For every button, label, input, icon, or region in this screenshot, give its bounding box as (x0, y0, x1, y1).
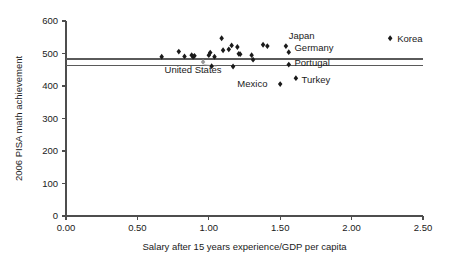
y-tick-label-300: 300 (42, 113, 58, 124)
x-tick-label-0.00: 0.00 (57, 222, 76, 233)
annotation-portugal: Portugal (294, 57, 329, 68)
y-tick-label-0: 0 (53, 210, 58, 221)
data-point-mexico (278, 81, 283, 87)
y-tick-label-500: 500 (42, 48, 58, 59)
chart-figure: 01002003004005006000.000.501.001.502.002… (0, 0, 453, 273)
chart-legend: Korea (388, 33, 423, 44)
data-point-point-14 (227, 46, 232, 52)
data-point-point-3 (182, 54, 187, 60)
y-tick-label-400: 400 (42, 80, 58, 91)
annotation-united-states: United States (165, 64, 222, 75)
scatter-plot: 01002003004005006000.000.501.001.502.002… (0, 0, 453, 273)
data-point-point-12 (219, 35, 224, 41)
x-tick-label-1.50: 1.50 (271, 222, 290, 233)
data-point-germany (287, 49, 292, 55)
data-point-point-16 (231, 64, 236, 70)
data-point-point-23 (265, 43, 270, 49)
axis-frame (66, 21, 423, 216)
data-point-japan (284, 43, 289, 49)
y-tick-label-100: 100 (42, 178, 58, 189)
x-tick-label-0.50: 0.50 (128, 222, 147, 233)
data-point-portugal (287, 62, 292, 68)
data-point-turkey (294, 75, 299, 81)
point-annotations: JapanGermanyPortugalTurkeyMexicoUnited S… (165, 30, 334, 89)
annotation-japan: Japan (289, 30, 315, 41)
legend-label-korea: Korea (397, 33, 423, 44)
x-tick-label-1.00: 1.00 (200, 222, 219, 233)
legend-marker-korea (388, 35, 393, 41)
data-point-point-17 (235, 44, 240, 50)
annotation-mexico: Mexico (237, 78, 267, 89)
y-axis-title: 2006 PISA math achievement (13, 56, 24, 182)
data-point-point-2 (177, 49, 182, 55)
x-tick-label-2.50: 2.50 (414, 222, 433, 233)
data-point-point-15 (229, 42, 234, 48)
data-points (159, 35, 298, 87)
x-tick-label-2.00: 2.00 (342, 222, 361, 233)
data-point-point-13 (221, 47, 226, 53)
data-point-point-22 (261, 42, 266, 48)
annotation-germany: Germany (294, 42, 333, 53)
reference-lines (66, 59, 423, 66)
x-axis-title: Salary after 15 years experience/GDP per… (142, 241, 347, 252)
annotation-turkey: Turkey (302, 74, 331, 85)
y-tick-label-600: 600 (42, 15, 58, 26)
y-tick-label-200: 200 (42, 145, 58, 156)
